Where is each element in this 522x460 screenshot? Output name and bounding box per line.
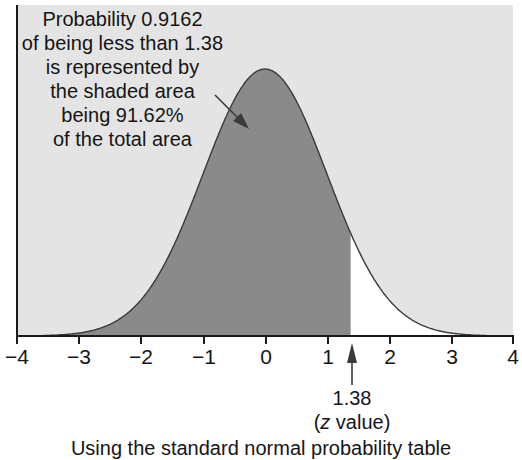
x-axis-ticks bbox=[17, 336, 513, 344]
annotation-line: of the total area bbox=[0, 127, 245, 151]
z-label-variable: z bbox=[320, 411, 330, 433]
z-value-number: 1.38 bbox=[312, 387, 392, 410]
x-tick-label: 3 bbox=[432, 345, 472, 369]
annotation-line: is represented by bbox=[0, 55, 245, 79]
x-tick-label: 1 bbox=[308, 345, 348, 369]
x-tick-label: −1 bbox=[184, 345, 224, 369]
x-tick-label: 0 bbox=[246, 345, 286, 369]
figure-caption: Using the standard normal probability ta… bbox=[0, 437, 522, 460]
z-label-suffix: value) bbox=[330, 411, 390, 433]
annotation-line: being 91.62% bbox=[0, 103, 245, 127]
x-tick-label: 4 bbox=[493, 345, 522, 369]
x-tick-label: −4 bbox=[0, 345, 37, 369]
probability-annotation: Probability 0.9162 of being less than 1.… bbox=[0, 7, 245, 151]
z-value-arrow-icon bbox=[347, 343, 357, 385]
x-tick-label: −3 bbox=[59, 345, 99, 369]
annotation-line: of being less than 1.38 bbox=[0, 31, 245, 55]
x-tick-label: −2 bbox=[121, 345, 161, 369]
x-tick-label: 2 bbox=[370, 345, 410, 369]
z-value-label: (z value) bbox=[312, 411, 392, 434]
annotation-line: Probability 0.9162 bbox=[0, 7, 245, 31]
annotation-line: the shaded area bbox=[0, 79, 245, 103]
